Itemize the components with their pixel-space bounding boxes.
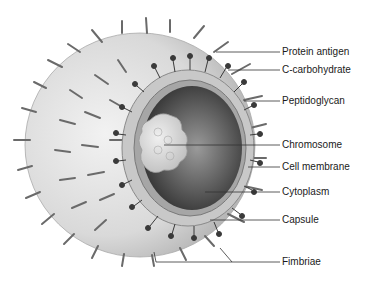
label-c-carbohydrate: C-carbohydrate: [282, 64, 351, 76]
label-cell-membrane: Cell membrane: [282, 161, 350, 173]
label-protein-antigen: Protein antigen: [282, 46, 349, 58]
label-fimbriae: Fimbriae: [282, 256, 321, 268]
label-cytoplasm: Cytoplasm: [282, 186, 329, 198]
label-peptidoglycan: Peptidoglycan: [282, 95, 345, 107]
label-capsule: Capsule: [282, 214, 319, 226]
label-chromosome: Chromosome: [282, 139, 342, 151]
